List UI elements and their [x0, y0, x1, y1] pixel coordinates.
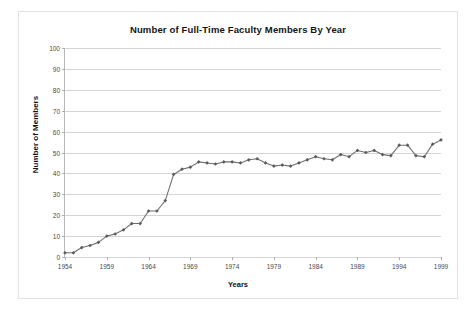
data-point-marker	[364, 151, 368, 155]
x-tick-mark	[232, 257, 233, 260]
x-tick-label: 1974	[225, 263, 239, 270]
data-point-marker	[255, 157, 259, 161]
x-tick-mark	[399, 257, 400, 260]
data-point-marker	[439, 138, 443, 142]
x-tick-mark	[316, 257, 317, 260]
gridline	[65, 257, 441, 258]
y-tick-label: 60	[53, 128, 60, 135]
data-point-marker	[113, 232, 117, 236]
x-tick-mark	[65, 257, 66, 260]
x-tick-label: 1964	[141, 263, 155, 270]
y-tick-label: 90	[53, 65, 60, 72]
y-tick-label: 70	[53, 107, 60, 114]
data-point-marker	[214, 162, 218, 166]
x-tick-label: 1994	[392, 263, 406, 270]
x-tick-mark	[274, 257, 275, 260]
y-tick-label: 40	[53, 170, 60, 177]
x-tick-label: 1999	[434, 263, 448, 270]
data-point-marker	[280, 163, 284, 167]
x-tick-mark	[107, 257, 108, 260]
y-tick-label: 30	[53, 191, 60, 198]
data-point-marker	[289, 164, 293, 168]
series-line	[65, 140, 441, 253]
x-tick-mark	[190, 257, 191, 260]
x-tick-label: 1989	[350, 263, 364, 270]
data-point-marker	[239, 161, 243, 165]
data-series-layer	[65, 48, 441, 257]
x-axis-label: Years	[19, 280, 457, 289]
x-tick-mark	[149, 257, 150, 260]
data-point-marker	[372, 149, 376, 153]
x-tick-label: 1959	[100, 263, 114, 270]
x-tick-mark	[441, 257, 442, 260]
y-tick-label: 10	[53, 233, 60, 240]
x-tick-label: 1979	[267, 263, 281, 270]
x-tick-label: 1969	[183, 263, 197, 270]
x-tick-label: 1954	[58, 263, 72, 270]
x-tick-label: 1984	[308, 263, 322, 270]
x-tick-mark	[357, 257, 358, 260]
data-point-marker	[230, 160, 234, 164]
y-tick-label: 0	[56, 254, 60, 261]
data-point-marker	[381, 153, 385, 157]
chart-container: Number of Full-Time Faculty Members By Y…	[18, 11, 458, 299]
data-point-marker	[297, 161, 301, 165]
y-tick-label: 50	[53, 149, 60, 156]
data-point-marker	[322, 157, 326, 161]
data-point-marker	[247, 158, 251, 162]
data-point-marker	[222, 160, 226, 164]
chart-title: Number of Full-Time Faculty Members By Y…	[19, 24, 457, 35]
y-axis-label: Number of Members	[31, 75, 40, 195]
y-tick-label: 20	[53, 212, 60, 219]
y-tick-label: 100	[49, 45, 60, 52]
data-point-marker	[88, 244, 92, 248]
y-tick-label: 80	[53, 86, 60, 93]
data-point-marker	[305, 158, 309, 162]
data-point-marker	[264, 161, 268, 165]
data-point-marker	[205, 161, 209, 165]
data-point-marker	[272, 164, 276, 168]
data-point-marker	[314, 155, 318, 159]
plot-area: 0102030405060708090100 19541959196419691…	[65, 48, 441, 257]
